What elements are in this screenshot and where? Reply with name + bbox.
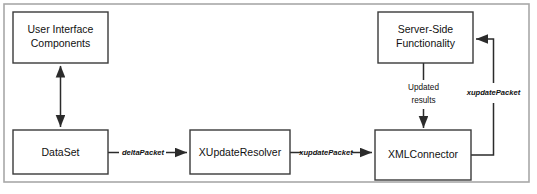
edge-label-xupdatepacket-connector-server: xupdatePacket	[466, 88, 521, 97]
node-label-dataset: DataSet	[42, 146, 80, 158]
node-label-user-interface-components-line1: User Interface	[28, 23, 94, 35]
edge-label-updated-results-line1: Updated	[408, 83, 439, 92]
diagram-canvas: User Interface Components Server-Side Fu…	[0, 0, 537, 194]
node-label-server-side-functionality-line2: Functionality	[396, 37, 456, 49]
edge-label-updated-results-line2: results	[411, 96, 435, 105]
node-label-user-interface-components-line2: Components	[31, 37, 91, 49]
node-label-server-side-functionality-line1: Server-Side	[398, 23, 454, 35]
edge-label-deltapacket: deltaPacket	[122, 148, 165, 157]
node-label-xmlconnector: XMLConnector	[388, 148, 459, 160]
edge-label-xupdatepacket-resolver-connector: xupdatePacket	[298, 148, 353, 157]
diagram-svg: User Interface Components Server-Side Fu…	[0, 0, 537, 194]
node-label-xupdateresolver: XUpdateResolver	[199, 146, 282, 158]
